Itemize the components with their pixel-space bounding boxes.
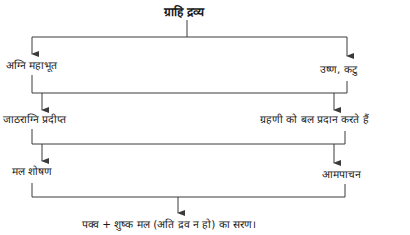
- level3-left-node: मल शोषण: [12, 166, 52, 177]
- level2-right-node: ग्रहणी को बल प्रदान करते हैं: [260, 114, 369, 125]
- level1-right-node: उष्ण, कटु: [320, 64, 357, 75]
- level2-left-node: जाठराग्नि प्रदीप्त: [3, 114, 66, 125]
- level3-right-node: आमपाचन: [322, 169, 361, 180]
- level1-left-node: अग्नि महाभूत: [6, 60, 57, 71]
- result-node: पक्व + शुष्क मल (अति द्रव न हो) का सरण।: [82, 219, 256, 230]
- root-node: ग्राहि द्रव्य: [164, 6, 204, 18]
